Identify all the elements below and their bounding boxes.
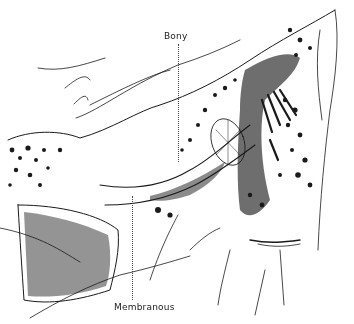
membranous-leader-line xyxy=(132,196,133,300)
label-membranous: Membranous xyxy=(114,302,175,312)
label-bony: Bony xyxy=(164,31,188,41)
ear-canal-illustration xyxy=(0,0,354,324)
bony-leader-line xyxy=(178,44,179,162)
